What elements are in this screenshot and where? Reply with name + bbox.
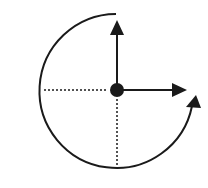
rotation-arc-arrowhead-icon — [186, 95, 201, 108]
right-arrowhead-icon — [172, 83, 187, 97]
rotation-diagram — [0, 0, 208, 188]
up-arrowhead-icon — [110, 20, 124, 35]
center-point — [110, 83, 124, 97]
